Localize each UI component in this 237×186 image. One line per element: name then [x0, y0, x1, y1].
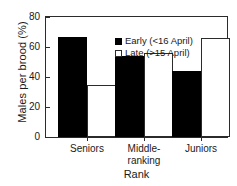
- x-category-label-middle-ranking: Middle- ranking: [128, 143, 161, 166]
- legend-swatch-late-icon: [115, 50, 122, 57]
- y-tick-mark: [46, 107, 50, 108]
- bar-juniors-early: [172, 71, 201, 137]
- y-axis-label: Males per brood (%): [16, 2, 28, 142]
- bar-juniors-late: [201, 38, 230, 137]
- bar-middle-late: [144, 53, 173, 137]
- y-tick-mark: [46, 47, 50, 48]
- y-tick-mark: [46, 137, 50, 138]
- plot-area: 0 20 40 60 80 Seniors Middle- ranking: [45, 16, 228, 138]
- x-category-label-seniors: Seniors: [70, 143, 104, 155]
- y-tick-mark: [46, 77, 50, 78]
- y-tick-label: 60: [29, 40, 40, 53]
- bar-seniors-late: [87, 85, 116, 138]
- legend-item-early: Early (<16 April): [115, 35, 193, 47]
- legend-item-late: Late (>15 April): [115, 47, 193, 59]
- y-tick-label: 40: [29, 70, 40, 83]
- x-axis-label: Rank: [45, 168, 228, 180]
- x-tick-seniors: [87, 137, 88, 141]
- legend-swatch-early-icon: [115, 38, 122, 45]
- bar-chart-figure: Males per brood (%) 0 20 40 60 80 Senior…: [0, 0, 237, 186]
- y-tick-label: 20: [29, 100, 40, 113]
- bar-middle-early: [115, 56, 144, 137]
- y-tick-mark: [46, 17, 50, 18]
- y-tick-label: 0: [34, 130, 40, 143]
- bar-seniors-early: [58, 37, 87, 138]
- chart-legend: Early (<16 April) Late (>15 April): [115, 35, 193, 59]
- x-tick-juniors: [201, 137, 202, 141]
- legend-label-late: Late (>15 April): [125, 47, 190, 59]
- legend-label-early: Early (<16 April): [125, 35, 193, 47]
- y-tick-label: 80: [29, 10, 40, 23]
- x-tick-middle-ranking: [144, 137, 145, 141]
- x-category-label-juniors: Juniors: [185, 143, 217, 155]
